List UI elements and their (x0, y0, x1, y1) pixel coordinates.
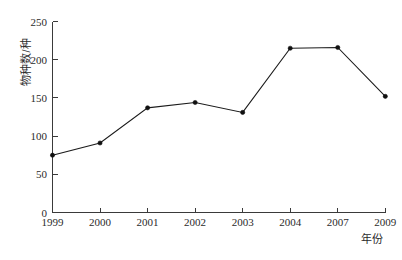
y-axis-title: 物种数/种 (19, 38, 32, 85)
x-tick-label-1999: 1999 (42, 216, 65, 228)
data-point-2009 (383, 94, 387, 98)
x-tick-label-2004: 2004 (279, 216, 302, 228)
chart-canvas: 0 50 100 150 200 250 1999 2000 2001 2002… (0, 0, 402, 260)
y-tick-label-200: 200 (31, 54, 48, 66)
data-point-2001 (145, 106, 149, 110)
data-point-2004 (288, 46, 292, 50)
data-point-1999 (50, 153, 54, 157)
x-tick-label-2009: 2009 (374, 216, 397, 228)
y-tick-label-150: 150 (31, 92, 48, 104)
data-point-2000 (98, 141, 102, 145)
data-point-2007 (336, 45, 340, 49)
data-point-2003 (241, 110, 245, 114)
x-axis-title: 年份 (361, 232, 383, 245)
y-tick-label-250: 250 (31, 16, 48, 28)
x-tick-label-2003: 2003 (232, 216, 255, 228)
x-tick-label-2001: 2001 (137, 216, 159, 228)
y-tick-label-100: 100 (31, 130, 48, 142)
data-point-2002 (193, 100, 197, 104)
x-tick-label-2002: 2002 (184, 216, 206, 228)
y-tick-label-50: 50 (36, 168, 48, 180)
x-tick-label-2000: 2000 (89, 216, 112, 228)
x-tick-label-2007: 2007 (327, 216, 350, 228)
line-chart-figure: 0 50 100 150 200 250 1999 2000 2001 2002… (0, 0, 402, 260)
